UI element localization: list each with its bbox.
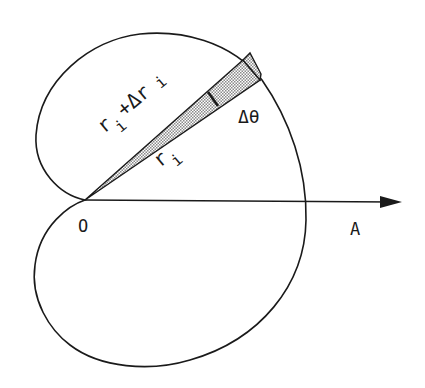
polar-diagram: O A Δθ r i r i +Δr i bbox=[0, 0, 425, 388]
polar-axis bbox=[85, 200, 392, 202]
svg-text:i: i bbox=[167, 150, 187, 171]
arrowhead-icon bbox=[380, 196, 402, 208]
delta-theta-label: Δθ bbox=[238, 106, 260, 127]
origin-label: O bbox=[78, 216, 88, 236]
svg-text:+Δr: +Δr bbox=[112, 80, 155, 122]
svg-text:i: i bbox=[151, 72, 171, 93]
axis-label: A bbox=[350, 219, 360, 239]
